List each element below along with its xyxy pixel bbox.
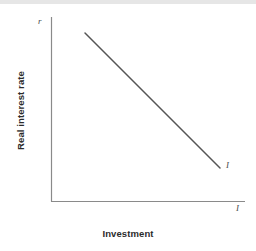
y-axis-tip-label: r xyxy=(38,16,42,26)
curve-label: I xyxy=(226,160,229,170)
y-axis-title: Real interest rate xyxy=(15,56,26,166)
investment-demand-chart: r I I Real interest rate Investment xyxy=(0,0,256,251)
x-axis-title: Investment xyxy=(0,228,256,239)
plot-canvas xyxy=(0,0,256,251)
x-axis-tip-label: I xyxy=(236,203,239,213)
investment-demand-curve xyxy=(85,33,220,168)
